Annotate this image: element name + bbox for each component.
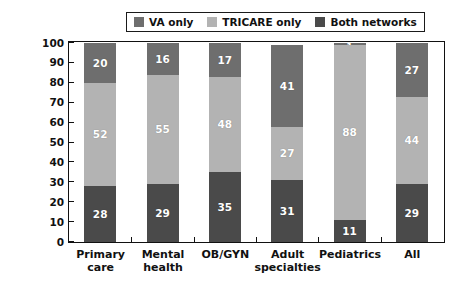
bar-column: 165529 <box>147 43 179 242</box>
legend-item-va-only: VA only <box>134 17 193 28</box>
bar-column: 18811 <box>334 43 366 242</box>
x-axis-tick-mark <box>256 237 257 242</box>
bar-segment-value-label: 17 <box>218 55 233 66</box>
bar-segment: 16 <box>147 43 179 75</box>
y-axis-tick-label: 60 <box>49 117 64 128</box>
y-axis-tick-mark <box>69 82 74 83</box>
bar-segment: 27 <box>271 127 303 181</box>
y-axis-tick-mark <box>69 241 74 242</box>
y-axis-tick-label: 50 <box>49 137 64 148</box>
bar-segment: 35 <box>209 172 241 242</box>
legend-swatch-icon-both-networks <box>315 17 325 27</box>
bar-segment: 20 <box>84 43 116 83</box>
bar-segment-value-label: 55 <box>155 124 170 135</box>
bar-segment-value-label: 20 <box>93 58 108 69</box>
bar-segment: 88 <box>334 45 366 220</box>
legend-label-tricare-only: TRICARE only <box>222 17 301 28</box>
bar-column: 205228 <box>84 43 116 242</box>
y-axis-tick-mark <box>69 62 74 63</box>
bar-segment: 55 <box>147 75 179 184</box>
bar-segment-value-label: 11 <box>342 226 357 237</box>
x-axis-tick-mark <box>194 237 195 242</box>
bar-segment-value-label: 31 <box>280 206 295 217</box>
legend-label-both-networks: Both networks <box>330 17 416 28</box>
bar-segment-value-label: 44 <box>405 135 420 146</box>
bar-segment: 29 <box>396 184 428 242</box>
y-axis-tick-label: 20 <box>49 196 64 207</box>
y-axis-tick-mark <box>69 221 74 222</box>
bar-segment-value-label: 29 <box>155 208 170 219</box>
x-axis-tick-mark <box>131 237 132 242</box>
bar-segment-value-label: 27 <box>405 65 420 76</box>
chart-legend: VA only TRICARE only Both networks <box>126 12 425 32</box>
bar-segment-value-label: 28 <box>93 209 108 220</box>
plot-area: 20522816552917483541273118811274429 <box>68 41 445 243</box>
y-axis-tick-label: 0 <box>57 236 64 247</box>
bar-segment-value-label: 35 <box>218 202 233 213</box>
bar-segment-value-label: 16 <box>155 54 170 65</box>
y-axis-tick-mark <box>69 102 74 103</box>
y-axis-tick-labels: 0102030405060708090100 <box>34 41 64 243</box>
bar-segment-value-label: 27 <box>280 148 295 159</box>
y-axis-tick-label: 90 <box>49 57 64 68</box>
bar-segment: 29 <box>147 184 179 242</box>
bar-segment: 48 <box>209 77 241 173</box>
bar-segment: 17 <box>209 43 241 77</box>
legend-item-tricare-only: TRICARE only <box>207 17 301 28</box>
x-axis-tick-mark <box>381 237 382 242</box>
bar-segment: 31 <box>271 180 303 242</box>
bar-segment-value-label: 29 <box>405 208 420 219</box>
y-axis-tick-mark <box>69 122 74 123</box>
legend-swatch-icon-tricare-only <box>207 17 217 27</box>
bar-column: 412731 <box>271 45 303 242</box>
bar-segment: 11 <box>334 220 366 242</box>
legend-label-va-only: VA only <box>149 17 193 28</box>
y-axis-tick-mark <box>69 201 74 202</box>
x-axis-tick-mark <box>318 237 319 242</box>
bar-segment-value-label: 41 <box>280 81 295 92</box>
bar-segment: 44 <box>396 97 428 185</box>
y-axis-tick-label: 10 <box>49 216 64 227</box>
y-axis-tick-label: 30 <box>49 177 64 188</box>
x-axis-category-label-line: specialties <box>245 261 331 274</box>
bar-segment-value-label: 52 <box>93 129 108 140</box>
y-axis-tick-mark <box>69 161 74 162</box>
y-axis-tick-label: 70 <box>49 97 64 108</box>
y-axis-tick-mark <box>69 42 74 43</box>
bar-segment-value-label: 88 <box>342 127 357 138</box>
bar-column: 174835 <box>209 43 241 242</box>
bar-segment: 28 <box>84 186 116 242</box>
y-axis-tick-mark <box>69 181 74 182</box>
y-axis-tick-mark <box>69 142 74 143</box>
y-axis-tick-label: 40 <box>49 157 64 168</box>
legend-item-both-networks: Both networks <box>315 17 416 28</box>
x-axis-category-label-line: All <box>369 248 455 261</box>
bar-segment: 52 <box>84 83 116 186</box>
y-axis-tick-label: 80 <box>49 77 64 88</box>
legend-swatch-icon-va-only <box>134 17 144 27</box>
bar-column: 274429 <box>396 43 428 242</box>
x-axis-category-label: All <box>369 248 455 261</box>
y-axis-tick-label: 100 <box>42 37 64 48</box>
bar-segment: 27 <box>396 43 428 97</box>
x-axis-category-labels: PrimarycareMentalhealthOB/GYNAdultspecia… <box>68 248 445 284</box>
x-axis-category-label-line: health <box>120 261 206 274</box>
bar-segment: 41 <box>271 45 303 127</box>
bar-segment-value-label: 48 <box>218 119 233 130</box>
